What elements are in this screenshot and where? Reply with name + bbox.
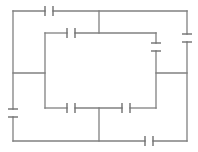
capacitor-icon — [122, 103, 130, 113]
circuit-diagram — [0, 0, 198, 152]
circuit-svg — [0, 0, 198, 152]
capacitor-icon — [67, 103, 75, 113]
capacitor-icon — [67, 28, 75, 38]
capacitors-group — [8, 6, 192, 146]
capacitor-icon — [182, 34, 192, 42]
capacitor-icon — [151, 43, 161, 51]
wires-group — [13, 11, 187, 141]
capacitor-icon — [8, 109, 18, 117]
capacitor-icon — [45, 6, 53, 16]
capacitor-icon — [145, 136, 153, 146]
